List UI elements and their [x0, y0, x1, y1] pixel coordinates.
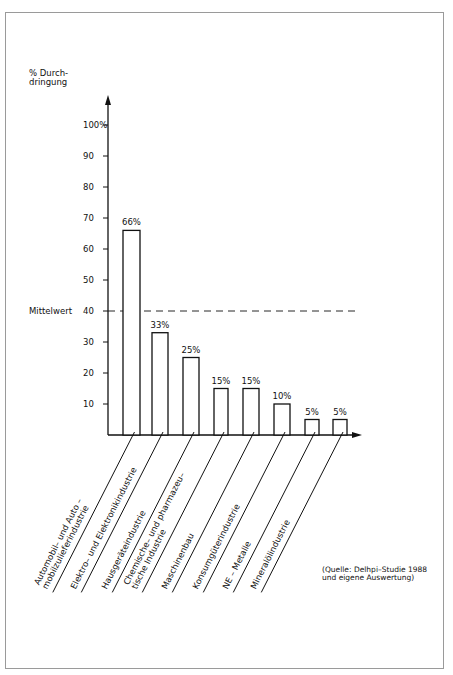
mean-reference-line: Mittelwert — [29, 306, 360, 316]
bar: 66% — [122, 217, 141, 435]
y-axis-label-line: dringung — [29, 77, 67, 87]
source-annotation: (Quelle: Delhpi–Studie 1988 und eigene A… — [322, 566, 427, 582]
y-tick-label: 70 — [83, 213, 94, 223]
bar: 15% — [242, 376, 261, 436]
category-leader-line — [142, 432, 224, 592]
bar: 5% — [333, 407, 347, 436]
bar-value-label: 15% — [212, 376, 231, 386]
category-label: Mineralölindustrie — [248, 518, 292, 591]
y-tick-label: 10 — [83, 399, 94, 409]
bar-value-label: 66% — [122, 217, 141, 227]
source-line-2: und eigene Auswertung) — [322, 573, 414, 582]
y-tick-label: 20 — [83, 368, 94, 378]
category-label: NE – Metalle — [220, 539, 253, 590]
bar-value-label: 15% — [242, 376, 261, 386]
y-tick-label: 100% — [83, 120, 107, 130]
bar-value-label: 33% — [151, 320, 170, 330]
mean-label: Mittelwert — [29, 306, 73, 316]
y-tick-label: 80 — [83, 182, 94, 192]
axes — [105, 95, 362, 438]
bar: 10% — [273, 391, 292, 435]
y-tick-label: 40 — [83, 306, 94, 316]
bars: 66%33%25%15%15%10%5%5% — [122, 217, 347, 435]
bar-value-label: 10% — [273, 391, 292, 401]
bar: 5% — [305, 407, 319, 436]
category-leader-line — [112, 432, 194, 592]
y-axis-ticks: 102030405060708090100% — [83, 120, 108, 409]
bar-value-label: 5% — [305, 407, 319, 417]
y-axis-arrow-icon — [105, 95, 111, 105]
y-axis-label: % Durch-dringung — [29, 68, 68, 87]
bar: 33% — [151, 320, 170, 435]
x-axis-category-labels: Automobil– und Auto –mobilzulieferindust… — [32, 432, 343, 592]
bar-value-label: 5% — [333, 407, 347, 417]
bar: 25% — [182, 345, 201, 436]
category-label-line: Mineralölindustrie — [248, 518, 292, 591]
y-tick-label: 30 — [83, 337, 94, 347]
y-tick-label: 50 — [83, 275, 94, 285]
category-leader-line — [172, 432, 254, 592]
category-leader-line — [203, 432, 285, 592]
bar: 15% — [212, 376, 231, 436]
category-label-line: NE – Metalle — [220, 539, 253, 590]
bar-value-label: 25% — [182, 345, 201, 355]
y-tick-label: 90 — [83, 151, 94, 161]
x-axis-arrow-icon — [352, 432, 362, 438]
category-leader-line — [233, 432, 315, 592]
y-tick-label: 60 — [83, 244, 94, 254]
